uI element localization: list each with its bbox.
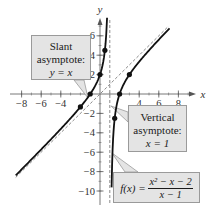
data-point — [127, 72, 132, 77]
vertical-label-line2: asymptote: — [129, 124, 186, 137]
y-tick-label: −8 — [84, 166, 95, 177]
y-tick-label: −2 — [84, 108, 95, 119]
function-callout-pointer — [112, 153, 138, 172]
slant-asymptote-callout: Slant asymptote: y = x — [31, 35, 91, 80]
x-tick-label: −4 — [55, 98, 67, 109]
vertical-asymptote-callout: Vertical asymptote: x = 1 — [128, 105, 187, 152]
x-tick-label: −6 — [36, 98, 47, 109]
data-point — [117, 91, 122, 96]
data-point — [88, 91, 93, 96]
y-tick-label: −4 — [84, 127, 96, 138]
function-callout: f(x) = x² − x − 2 x − 1 — [113, 172, 200, 203]
y-axis-arrow-icon — [98, 18, 103, 25]
function-lhs: f(x) = — [120, 182, 145, 194]
slant-callout-pointer — [74, 80, 88, 98]
slant-label-line1: Slant — [32, 40, 90, 53]
x-axis-label: x — [200, 88, 206, 100]
data-point — [97, 72, 102, 77]
slant-label-line2: asymptote: — [32, 53, 90, 66]
x-axis-arrow-icon — [189, 92, 196, 97]
y-tick-label: −6 — [84, 147, 95, 158]
y-tick-label: −10 — [79, 186, 95, 197]
graph-figure: xy−8−6−4468642−2−4−6−8−10 Slant asymptot… — [0, 0, 213, 212]
function-denominator: x − 1 — [148, 189, 192, 201]
function-fraction: x² − x − 2 x − 1 — [148, 176, 192, 201]
function-numerator: x² − x − 2 — [148, 176, 192, 189]
data-point — [112, 116, 117, 121]
slant-label-equation: y = x — [32, 66, 90, 79]
vertical-label-equation: x = 1 — [129, 137, 186, 150]
y-axis-label: y — [97, 3, 103, 15]
data-point — [78, 104, 83, 109]
data-point — [102, 48, 107, 53]
vertical-label-line1: Vertical — [129, 111, 186, 124]
x-tick-label: −8 — [16, 98, 27, 109]
